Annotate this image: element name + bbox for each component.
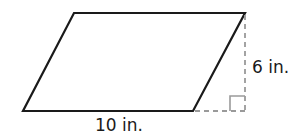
base-label: 10 in. bbox=[95, 117, 143, 134]
parallelogram-shape bbox=[23, 13, 245, 111]
height-label: 6 in. bbox=[252, 59, 289, 76]
parallelogram-diagram: 10 in. 6 in. bbox=[0, 0, 304, 140]
right-angle-marker bbox=[230, 96, 245, 111]
